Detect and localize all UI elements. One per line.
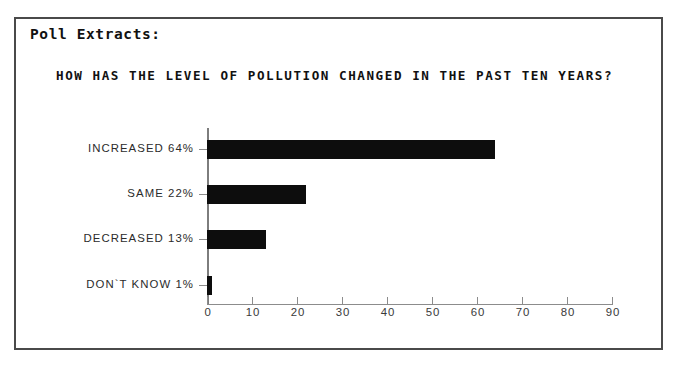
screenshot-root: Poll Extracts: HOW HAS THE LEVEL OF POLL…	[0, 0, 680, 367]
chart-question-heading: HOW HAS THE LEVEL OF POLLUTION CHANGED I…	[56, 68, 613, 83]
poll-extracts-frame	[14, 17, 663, 350]
page-title: Poll Extracts:	[30, 26, 161, 42]
